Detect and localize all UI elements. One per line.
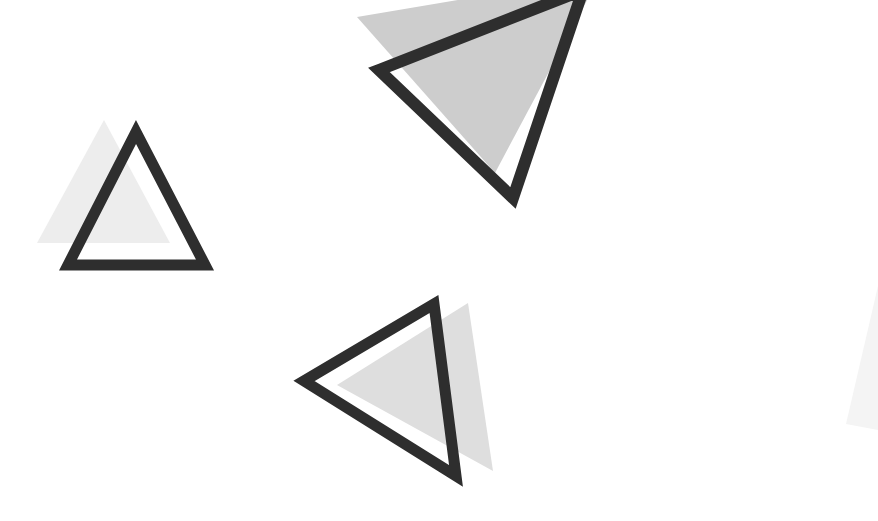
abstract-shapes-canvas <box>0 0 878 521</box>
shapes-svg <box>0 0 878 521</box>
